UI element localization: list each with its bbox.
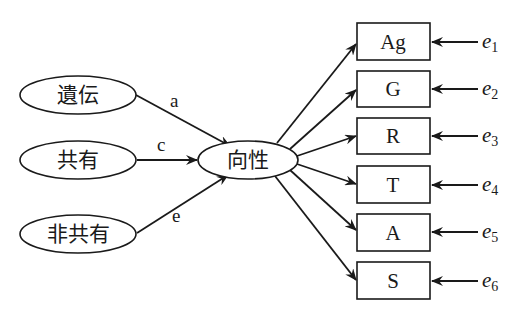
edge-orientation-to-ag (277, 44, 356, 143)
indicator-label: R (386, 124, 400, 148)
indicator-label: Ag (380, 30, 406, 54)
indicator-label: S (387, 269, 399, 293)
indicator-label: T (387, 173, 400, 197)
path-label-e: e (172, 205, 180, 226)
edge-orientation-to-a (290, 170, 356, 230)
path-label-c: c (157, 134, 165, 155)
error-label-5: e5 (482, 219, 498, 245)
source-node-heredity: 遺伝 (20, 76, 136, 114)
path-label-a: a (170, 90, 179, 111)
error-label-2: e2 (482, 76, 498, 102)
indicator-a: A (357, 214, 430, 251)
error-label-6: e6 (482, 268, 498, 294)
indicator-ag: Ag (357, 23, 430, 60)
indicator-r: R (357, 118, 430, 154)
edge-heredity-to-orientation (136, 95, 230, 146)
edge-nonshared-to-orientation (137, 175, 228, 233)
indicator-s: S (357, 262, 430, 299)
latent-label: 向性 (227, 148, 269, 172)
indicator-g: G (357, 71, 430, 107)
path-diagram: a c e 遺伝 共有 非共有 向性 Ag G R T A S (0, 0, 527, 322)
edge-orientation-to-t (297, 164, 356, 184)
source-label: 非共有 (47, 222, 110, 246)
source-node-shared: 共有 (20, 141, 136, 179)
source-label: 遺伝 (57, 83, 99, 107)
indicator-label: A (385, 221, 401, 245)
source-node-nonshared: 非共有 (20, 215, 136, 253)
error-label-3: e3 (482, 123, 498, 149)
error-label-1: e1 (482, 29, 498, 55)
error-label-4: e4 (482, 172, 498, 198)
source-label: 共有 (57, 148, 99, 172)
indicator-label: G (385, 77, 400, 101)
latent-node-orientation: 向性 (198, 141, 298, 179)
edge-orientation-to-s (275, 176, 356, 280)
edge-orientation-to-r (297, 136, 356, 156)
indicator-t: T (357, 166, 430, 203)
